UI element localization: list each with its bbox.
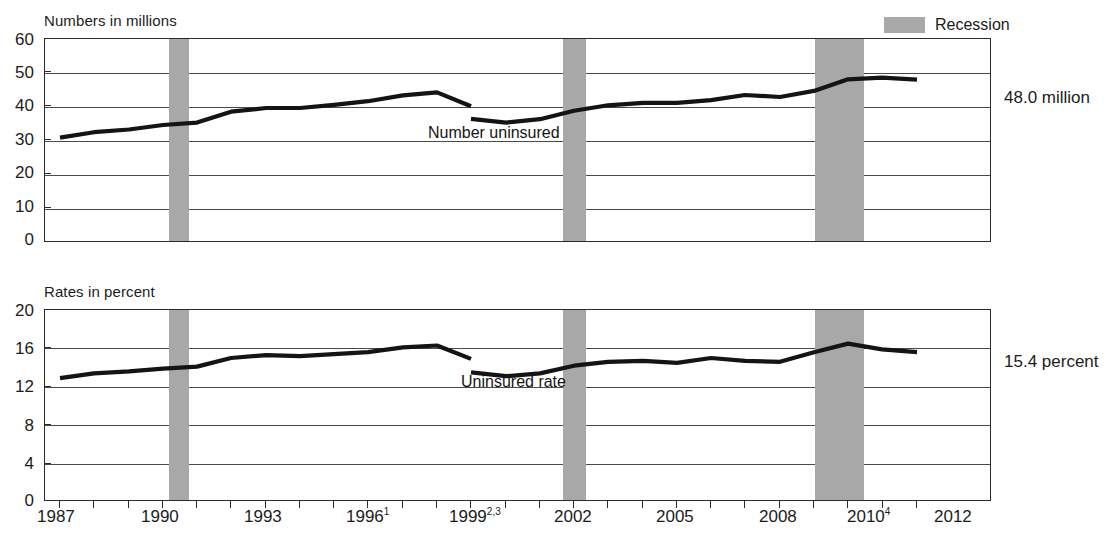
ytickmark-numbers-20 <box>44 173 51 174</box>
xtick-text: 1993 <box>244 507 282 526</box>
xtick-label-2012: 2012 <box>934 508 972 525</box>
panel-numbers-axis-title: Numbers in millions <box>44 12 177 29</box>
xtick-text: 1999 <box>449 507 487 526</box>
plot-area-numbers: Number uninsured <box>44 38 991 242</box>
legend-label-recession: Recession <box>935 16 1010 34</box>
recession-swatch-icon <box>884 17 925 33</box>
xtickmark-2007 <box>744 501 745 508</box>
legend: Recession <box>884 16 1010 34</box>
ytick-rates-0: 0 <box>0 492 34 509</box>
ytick-rates-12: 12 <box>0 378 34 395</box>
ytick-rates-20: 20 <box>0 302 34 319</box>
xtick-label-1999: 19992,3 <box>449 508 501 525</box>
panel-rates-axis-title: Rates in percent <box>44 283 155 300</box>
series-uninsured-rate <box>45 310 991 501</box>
xtickmark-2009 <box>813 501 814 508</box>
ytickmark-rates-4 <box>44 463 51 464</box>
xtick-label-2002: 2002 <box>554 508 592 525</box>
ytick-numbers-60: 60 <box>0 31 34 48</box>
xtick-label-2010: 20104 <box>847 508 890 525</box>
xtick-label-1996: 19961 <box>346 508 389 525</box>
xtickmark-1991 <box>196 501 197 508</box>
xtickmark-1994 <box>299 501 300 508</box>
ytick-numbers-40: 40 <box>0 97 34 114</box>
ytick-rates-16: 16 <box>0 340 34 357</box>
xtickmark-1989 <box>128 501 129 508</box>
ytick-numbers-20: 20 <box>0 164 34 181</box>
xtick-label-2008: 2008 <box>759 508 797 525</box>
xtickmark-2004 <box>642 501 643 508</box>
end-label-rates: 15.4 percent <box>1004 352 1099 372</box>
xtick-label-1993: 1993 <box>244 508 282 525</box>
ytickmark-numbers-10 <box>44 207 51 208</box>
ytickmark-rates-8 <box>44 424 51 425</box>
xtickmark-2001 <box>539 501 540 508</box>
xtick-footnote: 2,3 <box>487 506 501 517</box>
xtick-footnote: 1 <box>384 506 390 517</box>
ytick-numbers-10: 10 <box>0 198 34 215</box>
xtickmark-1992 <box>230 501 231 508</box>
xtick-text: 1996 <box>346 507 384 526</box>
ytick-rates-8: 8 <box>0 417 34 434</box>
ytick-numbers-0: 0 <box>0 231 34 248</box>
xtick-footnote: 4 <box>885 506 891 517</box>
xtick-text: 2008 <box>759 507 797 526</box>
series-label-number-uninsured: Number uninsured <box>428 124 560 142</box>
xtick-label-2005: 2005 <box>656 508 694 525</box>
xtickmark-1997 <box>402 501 403 508</box>
ytickmark-numbers-50 <box>44 71 51 72</box>
xtick-text: 2005 <box>656 507 694 526</box>
end-label-numbers: 48.0 million <box>1004 88 1090 108</box>
xtickmark-1988 <box>93 501 94 508</box>
xtick-text: 1987 <box>37 507 75 526</box>
series-label-uninsured-rate: Uninsured rate <box>461 373 566 391</box>
xtick-text: 2002 <box>554 507 592 526</box>
plot-area-rates: Uninsured rate <box>44 309 991 501</box>
xtick-text: 2010 <box>847 507 885 526</box>
xtick-label-1987: 1987 <box>37 508 75 525</box>
ytickmark-rates-12 <box>44 386 51 387</box>
ytick-rates-4: 4 <box>0 455 34 472</box>
xtickmark-2000 <box>505 501 506 508</box>
xtick-text: 1990 <box>141 507 179 526</box>
xtickmark-1995 <box>333 501 334 508</box>
xtickmark-1998 <box>436 501 437 508</box>
xtickmark-2012 <box>916 501 917 508</box>
xtick-label-1990: 1990 <box>141 508 179 525</box>
ytickmark-rates-16 <box>44 347 51 348</box>
ytick-numbers-30: 30 <box>0 131 34 148</box>
uninsured-population-figure: Recession Numbers in millions 60 50 40 3… <box>0 0 1116 538</box>
ytickmark-numbers-40 <box>44 105 51 106</box>
xtickmark-2003 <box>607 501 608 508</box>
xtickmark-2006 <box>710 501 711 508</box>
xtick-text: 2012 <box>934 507 972 526</box>
ytickmark-numbers-30 <box>44 139 51 140</box>
ytick-numbers-50: 50 <box>0 64 34 81</box>
